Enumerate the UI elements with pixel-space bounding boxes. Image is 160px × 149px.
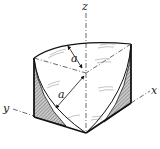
x-axis-label: x: [151, 84, 158, 97]
cube-bottom-right-edge: [86, 103, 131, 133]
y-axis-label: y: [2, 102, 10, 115]
z-axis-label: z: [81, 0, 88, 13]
right-hatched-region: [104, 44, 131, 122]
y-axis: [13, 109, 34, 116]
hidden-line-right: [86, 44, 131, 73]
hidden-line-left: [34, 58, 86, 73]
cube-top-arc: [34, 43, 131, 58]
x-axis: [131, 91, 150, 103]
cube-sphere-diagram: z y x a a: [0, 0, 160, 149]
dimension-label-lower: a: [58, 88, 65, 101]
dimension-label-upper: a: [71, 52, 78, 65]
